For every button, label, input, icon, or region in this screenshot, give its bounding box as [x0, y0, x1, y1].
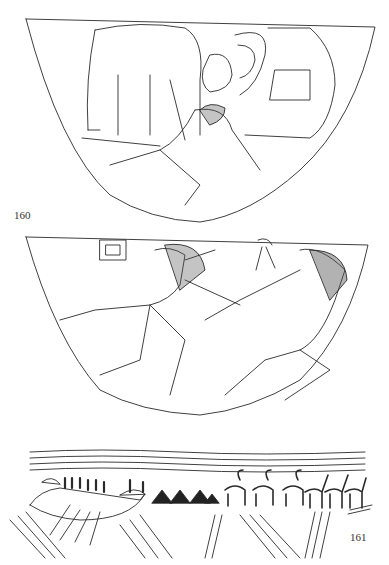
figure-161-frieze [0, 0, 389, 565]
hills [152, 490, 219, 503]
water-lines [30, 450, 365, 472]
boat [30, 488, 145, 520]
oars [50, 505, 100, 545]
diagonal-water [10, 512, 330, 558]
ostrich-birds [305, 475, 366, 508]
horned-animals [225, 470, 303, 506]
figure-number-161: 161 [350, 531, 367, 543]
